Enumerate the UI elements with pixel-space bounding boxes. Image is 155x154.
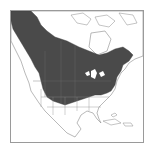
map-frame [10,10,144,143]
caribbean-islands [103,113,133,126]
range-map [11,11,143,142]
